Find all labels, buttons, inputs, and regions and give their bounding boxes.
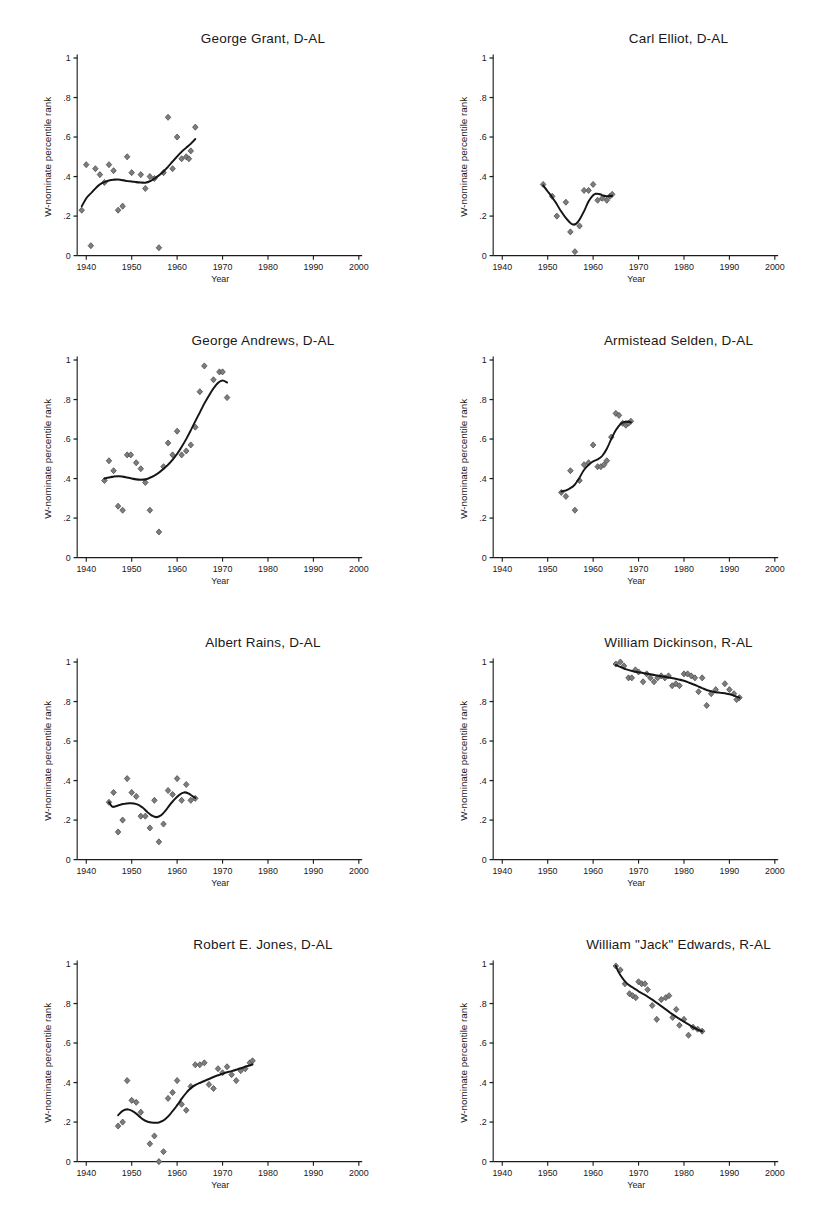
data-point	[673, 1006, 678, 1012]
scatter-plot-svg: 0.2.4.6.811940195019601970198019902000Ye…	[40, 620, 376, 890]
chart-title: William "Jack" Edwards, R-AL	[502, 937, 792, 952]
data-point	[653, 1016, 658, 1022]
x-tick-label: 1950	[122, 262, 142, 272]
x-tick-label: 2000	[764, 262, 784, 272]
x-tick-label: 2000	[764, 1168, 784, 1178]
y-axis-label: W-nominate percentile rank	[43, 701, 52, 821]
x-tick-label: 1950	[122, 564, 142, 574]
y-tick-label: 1	[481, 657, 486, 667]
y-tick-label: .6	[479, 132, 486, 142]
y-tick-label: .6	[63, 434, 70, 444]
x-axis-label: Year	[627, 273, 645, 283]
data-point	[726, 687, 731, 693]
y-tick-label: .6	[479, 736, 486, 746]
x-tick-label: 1940	[76, 262, 96, 272]
y-axis-label: W-nominate percentile rank	[458, 97, 467, 217]
y-tick-label: 0	[481, 553, 486, 563]
data-point	[147, 825, 152, 831]
data-point	[88, 243, 93, 249]
scatter-plot: 0.2.4.6.811940195019601970198019902000Ye…	[40, 620, 376, 890]
data-point	[156, 529, 161, 535]
x-tick-label: 1970	[213, 1168, 233, 1178]
x-tick-label: 1990	[719, 866, 739, 876]
data-point	[174, 428, 179, 434]
data-point	[567, 229, 572, 235]
y-tick-label: 0	[481, 251, 486, 261]
x-tick-label: 1960	[167, 1168, 187, 1178]
data-point	[79, 207, 84, 213]
y-tick-label: .6	[479, 434, 486, 444]
x-axis-label: Year	[627, 575, 645, 585]
data-point	[576, 223, 581, 229]
data-point	[188, 148, 193, 154]
y-tick-label: .8	[63, 999, 70, 1009]
data-point	[143, 813, 148, 819]
y-axis-label: W-nominate percentile rank	[43, 97, 52, 217]
scatter-series	[102, 363, 230, 535]
x-tick-label: 1940	[76, 866, 96, 876]
data-point	[695, 689, 700, 695]
data-point	[106, 162, 111, 168]
x-axis-label: Year	[211, 877, 229, 887]
chart-panel-armistead-selden: 0.2.4.6.811940195019601970198019902000Ye…	[456, 318, 792, 588]
x-tick-label: 1960	[583, 564, 603, 574]
y-tick-label: 1	[481, 53, 486, 63]
scatter-plot-svg: 0.2.4.6.811940195019601970198019902000Ye…	[40, 16, 376, 286]
data-point	[211, 377, 216, 383]
y-tick-label: .4	[63, 172, 70, 182]
x-tick-label: 1940	[492, 1168, 512, 1178]
data-point	[699, 675, 704, 681]
data-point	[224, 1064, 229, 1070]
y-tick-label: 1	[66, 355, 71, 365]
figure-grid: 0.2.4.6.811940195019601970198019902000Ye…	[0, 0, 831, 1208]
chart-panel-george-grant: 0.2.4.6.811940195019601970198019902000Ye…	[40, 16, 376, 286]
x-tick-label: 1980	[674, 866, 694, 876]
y-tick-label: .8	[479, 697, 486, 707]
scatter-series	[106, 776, 198, 845]
data-point	[120, 203, 125, 209]
scatter-plot-svg: 0.2.4.6.811940195019601970198019902000Ye…	[456, 16, 792, 286]
data-point	[165, 787, 170, 793]
data-point	[138, 172, 143, 178]
data-point	[120, 1119, 125, 1125]
scatter-plot: 0.2.4.6.811940195019601970198019902000Ye…	[456, 318, 792, 588]
y-tick-label: .2	[63, 815, 70, 825]
data-point	[128, 452, 133, 458]
data-point	[179, 452, 184, 458]
x-axis-label: Year	[211, 1179, 229, 1189]
data-point	[193, 124, 198, 130]
x-tick-label: 1940	[76, 564, 96, 574]
scatter-plot-svg: 0.2.4.6.811940195019601970198019902000Ye…	[456, 620, 792, 890]
y-tick-label: .4	[479, 172, 486, 182]
data-point	[174, 1078, 179, 1084]
x-tick-label: 2000	[349, 1168, 369, 1178]
x-tick-label: 1950	[537, 262, 557, 272]
chart-panel-george-andrews: 0.2.4.6.811940195019601970198019902000Ye…	[40, 318, 376, 588]
data-point	[170, 791, 175, 797]
data-point	[585, 187, 590, 193]
data-point	[183, 448, 188, 454]
data-point	[188, 442, 193, 448]
x-tick-label: 1990	[719, 1168, 739, 1178]
x-tick-label: 1980	[258, 564, 278, 574]
data-point	[124, 1078, 129, 1084]
data-point	[206, 1081, 211, 1087]
x-tick-label: 1940	[492, 262, 512, 272]
y-tick-label: 1	[481, 959, 486, 969]
data-point	[93, 166, 98, 172]
chart-title: William Dickinson, R-AL	[502, 635, 792, 650]
x-tick-label: 1990	[719, 564, 739, 574]
y-tick-label: 0	[481, 1157, 486, 1167]
y-tick-label: .2	[479, 513, 486, 523]
y-tick-label: 1	[66, 657, 71, 667]
y-tick-label: .4	[479, 776, 486, 786]
data-point	[124, 154, 129, 160]
x-tick-label: 1980	[258, 866, 278, 876]
chart-title: Robert E. Jones, D-AL	[86, 937, 376, 952]
data-point	[138, 1109, 143, 1115]
data-point	[572, 507, 577, 513]
data-point	[133, 460, 138, 466]
y-tick-label: .8	[63, 93, 70, 103]
scatter-plot: 0.2.4.6.811940195019601970198019902000Ye…	[456, 620, 792, 890]
data-point	[115, 207, 120, 213]
